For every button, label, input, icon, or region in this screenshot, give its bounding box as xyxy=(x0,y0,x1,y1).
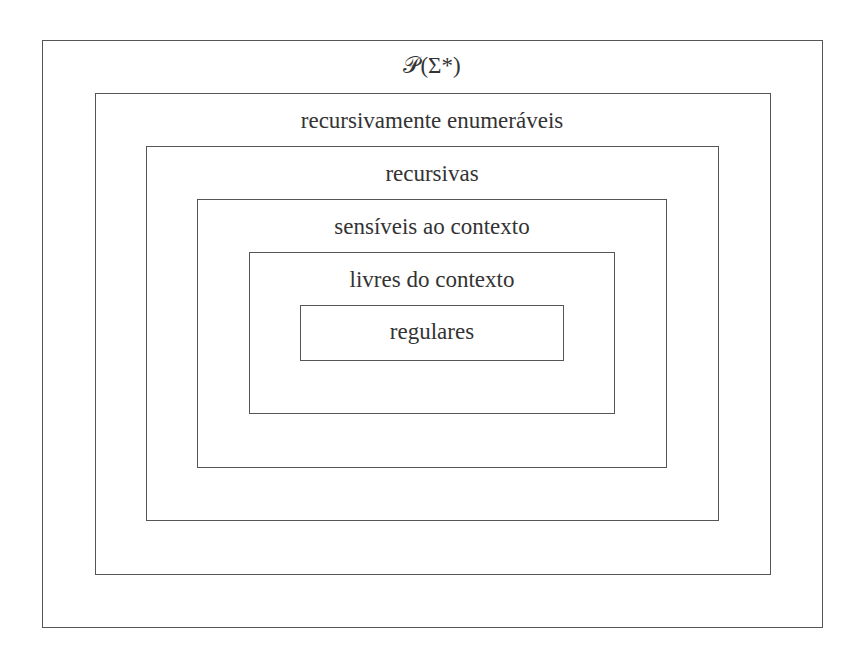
label-context-free: livres do contexto xyxy=(0,266,864,294)
label-recursive: recursivas xyxy=(0,160,864,188)
label-regular: regulares xyxy=(0,318,864,346)
label-context-sensitive: sensíveis ao contexto xyxy=(0,213,864,241)
label-powerset: 𝒫(Σ*) xyxy=(0,52,864,80)
label-recursively-enumerable: recursivamente enumeráveis xyxy=(0,107,864,135)
